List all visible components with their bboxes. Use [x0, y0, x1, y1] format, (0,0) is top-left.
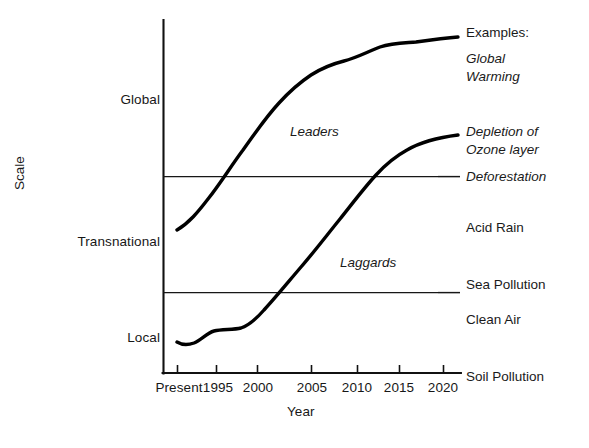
- series-label-laggards: Laggards: [340, 255, 396, 270]
- x-tick-label-2005: 2005: [297, 380, 327, 396]
- example-deforestation: Deforestation: [466, 169, 546, 185]
- y-tick-label-global: Global: [120, 92, 160, 108]
- example-ozone-layer: Ozone layer: [466, 142, 539, 158]
- chart-figure: Scale Global Transnational Local Present…: [0, 0, 589, 448]
- x-tick-label-2015: 2015: [384, 380, 414, 396]
- series-line-laggards: [177, 135, 458, 344]
- example-acid-rain: Acid Rain: [466, 220, 524, 236]
- y-tick-label-transnational: Transnational: [77, 234, 160, 250]
- example-depletion-of: Depletion of: [466, 124, 538, 140]
- examples-header: Examples:: [466, 25, 529, 41]
- x-tick-label-2020: 2020: [428, 380, 458, 396]
- x-axis-ticks: [178, 365, 444, 373]
- example-clean-air: Clean Air: [466, 312, 521, 328]
- x-tick-label-present: Present: [155, 380, 202, 396]
- x-tick-label-1995: 1995: [203, 380, 233, 396]
- example-soil-pollution: Soil Pollution: [466, 369, 544, 385]
- example-global: Global: [466, 51, 505, 67]
- example-warming: Warming: [466, 69, 520, 85]
- x-tick-label-2010: 2010: [342, 380, 372, 396]
- x-tick-label-2000: 2000: [243, 380, 273, 396]
- x-axis-title: Year: [287, 404, 315, 420]
- y-axis-title: Scale: [12, 156, 27, 190]
- series-label-leaders: Leaders: [290, 124, 339, 139]
- y-tick-label-local: Local: [127, 330, 160, 346]
- example-sea-pollution: Sea Pollution: [466, 277, 546, 293]
